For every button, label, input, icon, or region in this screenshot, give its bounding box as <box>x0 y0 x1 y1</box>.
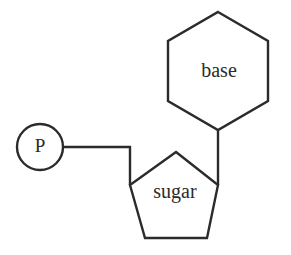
nucleotide-diagram-canvas: base sugar P <box>0 0 291 255</box>
nucleotide-diagram: base sugar P <box>0 0 291 255</box>
base-label: base <box>201 59 237 81</box>
sugar-label: sugar <box>153 180 197 203</box>
phosphate-label: P <box>35 135 46 156</box>
phosphate-sugar-bond <box>63 147 130 185</box>
